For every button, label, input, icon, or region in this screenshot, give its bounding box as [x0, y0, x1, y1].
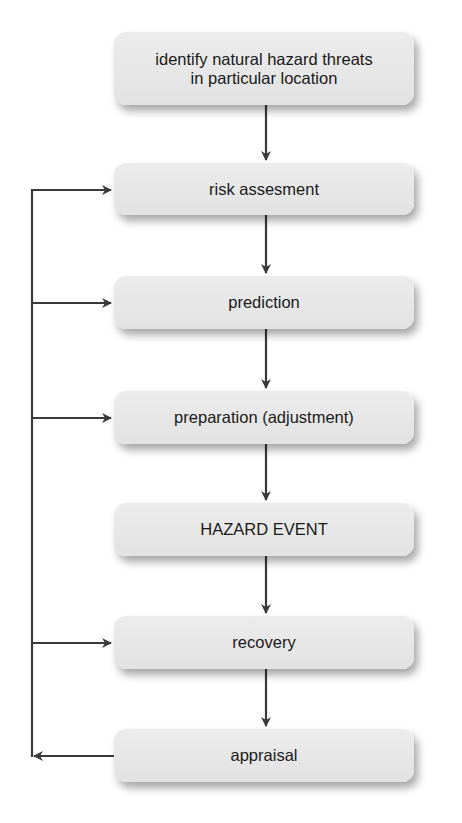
node-recovery: recovery [114, 616, 414, 669]
node-preparation: preparation (adjustment) [114, 391, 414, 444]
node-label-line1: identify natural hazard threats [155, 50, 372, 69]
node-identify-hazard-threats: identify natural hazard threats in parti… [114, 32, 414, 105]
node-appraisal: appraisal [114, 729, 414, 782]
node-label: risk assesment [209, 180, 319, 199]
node-label: appraisal [231, 746, 298, 765]
node-prediction: prediction [114, 276, 414, 329]
node-label: HAZARD EVENT [200, 520, 327, 539]
node-label: recovery [232, 633, 295, 652]
node-risk-assessment: risk assesment [114, 163, 414, 215]
node-label: prediction [228, 293, 300, 312]
node-label-line2: in particular location [155, 69, 372, 88]
node-hazard-event: HAZARD EVENT [114, 503, 414, 556]
node-label: preparation (adjustment) [174, 408, 354, 427]
